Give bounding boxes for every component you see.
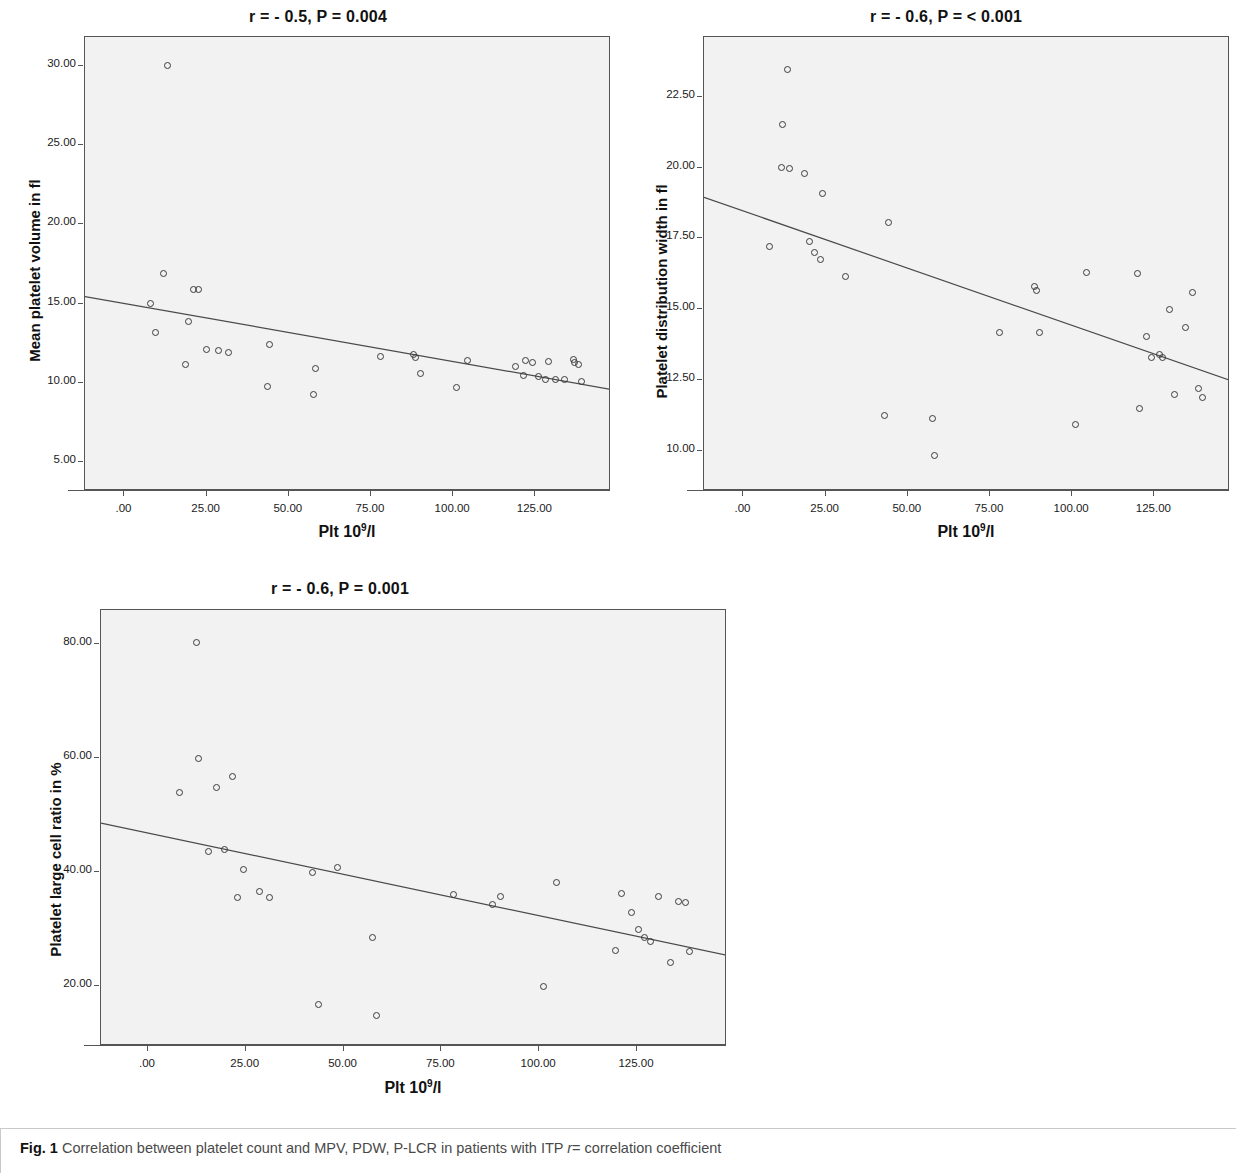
data-point — [512, 363, 519, 370]
x-tick-label: 50.00 — [328, 1057, 357, 1069]
x-tick-mark — [825, 491, 826, 496]
panel-mpv-title: r = - 0.5, P = 0.004 — [0, 8, 636, 26]
x-tick-mark — [206, 491, 207, 496]
x-tick-mark — [1153, 491, 1154, 496]
data-point — [578, 378, 585, 385]
data-point — [195, 755, 202, 762]
data-point — [229, 773, 236, 780]
data-point — [996, 329, 1003, 336]
panel-plcr-plot-area — [100, 609, 726, 1045]
data-point — [417, 370, 424, 377]
data-point — [264, 383, 271, 390]
x-tick-label: 100.00 — [521, 1057, 556, 1069]
y-tick-mark — [697, 167, 702, 168]
data-point — [453, 384, 460, 391]
x-tick-mark — [1071, 491, 1072, 496]
x-tick-mark — [370, 491, 371, 496]
data-point — [540, 983, 547, 990]
x-tick-mark — [636, 1046, 637, 1051]
y-tick-mark — [697, 450, 702, 451]
data-point — [675, 898, 682, 905]
data-point — [312, 365, 319, 372]
panel-mpv-ylabel: Mean platelet volume in fl — [26, 151, 43, 391]
data-point — [575, 361, 582, 368]
data-point — [266, 894, 273, 901]
data-point — [811, 249, 818, 256]
y-tick-label: 10.00 — [18, 374, 76, 386]
x-tick-mark — [907, 491, 908, 496]
regression-line — [85, 37, 610, 490]
y-tick-label: 60.00 — [34, 749, 92, 761]
panel-pdw-x-axis-line — [687, 490, 1229, 491]
x-tick-label: 125.00 — [517, 502, 552, 514]
y-tick-label: 20.00 — [18, 215, 76, 227]
y-tick-label: 22.50 — [637, 88, 695, 100]
y-tick-label: 5.00 — [18, 453, 76, 465]
data-point — [497, 893, 504, 900]
y-tick-label: 15.00 — [18, 295, 76, 307]
data-point — [1171, 391, 1178, 398]
panel-plcr-ylabel: Platelet large cell ratio in % — [47, 735, 64, 985]
data-point — [225, 349, 232, 356]
x-tick-mark — [742, 491, 743, 496]
y-tick-mark — [94, 643, 99, 644]
panel-pdw: r = - 0.6, P = < 0.001 Platelet distribu… — [616, 0, 1236, 560]
x-tick-label: 75.00 — [356, 502, 385, 514]
x-tick-label: 25.00 — [810, 502, 839, 514]
x-tick-mark — [538, 1046, 539, 1051]
panel-mpv-x-axis-line — [68, 490, 610, 491]
y-tick-label: 20.00 — [637, 159, 695, 171]
xlabel-prefix: Plt 10 — [937, 523, 980, 540]
data-point — [215, 347, 222, 354]
data-point — [1189, 289, 1196, 296]
data-point — [529, 359, 536, 366]
x-tick-mark — [440, 1046, 441, 1051]
panel-mpv: r = - 0.5, P = 0.004 Mean platelet volum… — [0, 0, 636, 560]
y-tick-label: 12.50 — [637, 371, 695, 383]
data-point — [1036, 329, 1043, 336]
y-tick-mark — [697, 308, 702, 309]
data-point — [334, 864, 341, 871]
y-tick-mark — [78, 144, 83, 145]
data-point — [1166, 306, 1173, 313]
regression-line — [704, 37, 1229, 490]
data-point — [1072, 421, 1079, 428]
caption-label: Fig. 1 — [20, 1140, 58, 1156]
xlabel-prefix: Plt 10 — [384, 1079, 427, 1096]
figure-caption: Fig. 1 Correlation between platelet coun… — [20, 1140, 721, 1156]
data-point — [612, 947, 619, 954]
y-tick-mark — [78, 382, 83, 383]
data-point — [309, 869, 316, 876]
data-point — [931, 452, 938, 459]
panel-pdw-title: r = - 0.6, P = < 0.001 — [656, 8, 1236, 26]
data-point — [520, 372, 527, 379]
x-tick-label: 75.00 — [426, 1057, 455, 1069]
xlabel-suffix: /l — [433, 1079, 442, 1096]
x-tick-mark — [123, 491, 124, 496]
data-point — [655, 893, 662, 900]
xlabel-suffix: /l — [986, 523, 995, 540]
data-point — [806, 238, 813, 245]
y-tick-mark — [78, 303, 83, 304]
panel-pdw-plot-area — [703, 36, 1229, 490]
x-tick-label: .00 — [139, 1057, 155, 1069]
x-tick-mark — [245, 1046, 246, 1051]
y-tick-label: 30.00 — [18, 57, 76, 69]
panel-plcr: r = - 0.6, P = 0.001 Platelet large cell… — [0, 578, 760, 1118]
data-point — [778, 164, 785, 171]
x-tick-label: 100.00 — [435, 502, 470, 514]
y-tick-mark — [94, 871, 99, 872]
data-point — [1143, 333, 1150, 340]
y-tick-mark — [78, 461, 83, 462]
xlabel-suffix: /l — [367, 523, 376, 540]
x-tick-label: 50.00 — [273, 502, 302, 514]
panel-mpv-xlabel: Plt 109/l — [84, 522, 610, 541]
x-tick-label: 50.00 — [892, 502, 921, 514]
y-tick-label: 15.00 — [637, 300, 695, 312]
y-tick-mark — [94, 757, 99, 758]
caption-text: Correlation between platelet count and M… — [62, 1140, 563, 1156]
data-point — [628, 909, 635, 916]
y-tick-mark — [78, 223, 83, 224]
y-tick-mark — [697, 379, 702, 380]
xlabel-prefix: Plt 10 — [318, 523, 361, 540]
